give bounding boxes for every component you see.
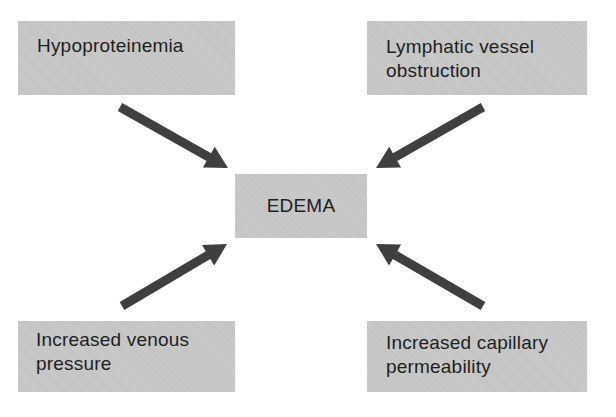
cause-box-venous-pressure: Increased venous pressure [18,321,235,392]
effect-box-edema: EDEMA [235,174,367,238]
effect-label: EDEMA [235,194,367,218]
cause-label: Hypoproteinemia [37,34,184,58]
cause-box-lymphatic-obstruction: Lymphatic vessel obstruction [367,21,587,95]
cause-box-capillary-permeability: Increased capillary permeability [367,321,587,392]
arrow-shape [376,103,485,168]
arrow-capillary-to-edema [376,244,485,310]
cause-box-hypoproteinemia: Hypoproteinemia [18,21,235,95]
arrow-shape [376,244,485,310]
arrow-venous-to-edema [120,244,227,310]
cause-label: Lymphatic vessel obstruction [386,35,576,83]
arrow-lymphatic-to-edema [376,103,485,168]
arrow-hypoproteinemia-to-edema [118,103,228,168]
arrow-shape [120,244,227,310]
cause-label: Increased capillary permeability [386,331,586,379]
arrow-shape [118,103,228,168]
cause-label: Increased venous pressure [36,328,226,376]
